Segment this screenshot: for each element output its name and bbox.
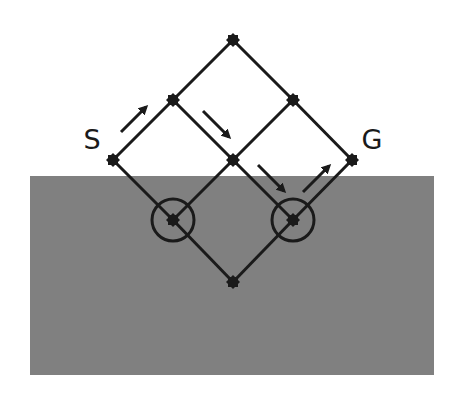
label-start: S (83, 124, 100, 155)
node-core (347, 155, 357, 165)
node-core (228, 35, 238, 45)
node-core (288, 215, 298, 225)
arrow-1-icon (121, 107, 146, 132)
edge-n-center-n-r2-right (233, 100, 293, 160)
endpoint-labels: SG (83, 124, 382, 155)
node-core (228, 277, 238, 287)
node-core (228, 155, 238, 165)
node-core (288, 95, 298, 105)
node-core (168, 95, 178, 105)
label-goal: G (362, 124, 383, 155)
shaded-region (30, 176, 434, 375)
edge-n-r2-right-n-goal (293, 100, 352, 160)
node-core (108, 155, 118, 165)
node-core (168, 215, 178, 225)
edge-n-top-n-r2-right (233, 40, 293, 100)
edge-n-r2-left-n-top (173, 40, 233, 100)
lattice-diagram: SG (0, 0, 462, 399)
